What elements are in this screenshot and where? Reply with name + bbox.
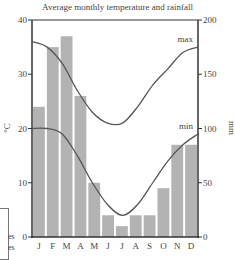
- month-label: A: [133, 241, 140, 251]
- month-label: M: [63, 241, 71, 251]
- left-axis-label: °C: [2, 123, 12, 133]
- left-tick-label: 40: [18, 15, 28, 25]
- month-label: J: [37, 241, 41, 251]
- rainfall-bar: [130, 215, 142, 237]
- left-tick-label: 0: [23, 232, 28, 242]
- month-label: J: [120, 241, 124, 251]
- month-label: N: [174, 241, 181, 251]
- month-label: J: [106, 241, 110, 251]
- right-axis-label: mm: [227, 121, 235, 135]
- right-tick-label: 100: [203, 124, 217, 134]
- month-label: F: [50, 241, 55, 251]
- month-label: M: [90, 241, 98, 251]
- rainfall-bar: [185, 145, 197, 237]
- month-label: A: [77, 241, 84, 251]
- rainfall-bar: [144, 215, 156, 237]
- rainfall-bar: [158, 188, 170, 237]
- rainfall-bar: [116, 226, 128, 237]
- month-label: O: [160, 241, 167, 251]
- month-label: S: [147, 241, 152, 251]
- right-tick-label: 150: [203, 69, 217, 79]
- rainfall-bar: [171, 145, 183, 237]
- rainfall-bar: [102, 215, 114, 237]
- max-line-label: max: [178, 34, 194, 44]
- right-tick-label: 0: [203, 232, 208, 242]
- rainfall-bar: [88, 183, 100, 237]
- legend-text-2: es: [8, 243, 15, 252]
- right-tick-label: 200: [203, 15, 217, 25]
- left-tick-label: 30: [18, 69, 28, 79]
- month-label: D: [188, 241, 195, 251]
- rainfall-bar: [61, 36, 73, 237]
- rainfall-bar: [33, 107, 45, 237]
- rainfall-bar: [47, 47, 59, 237]
- rainfall-bar: [75, 96, 87, 237]
- left-tick-label: 10: [18, 178, 28, 188]
- left-tick-label: 20: [18, 124, 28, 134]
- min-line-label: min: [179, 121, 194, 131]
- right-tick-label: 50: [203, 178, 213, 188]
- legend-text-1: es: [8, 232, 15, 241]
